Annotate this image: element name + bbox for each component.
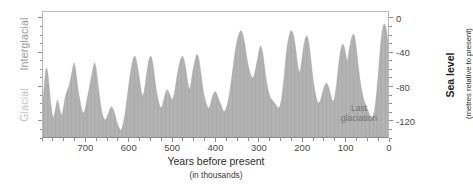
x-tick-minor xyxy=(107,138,108,141)
y-tick-major-right xyxy=(389,52,393,53)
y-tick-minor-left xyxy=(40,95,43,96)
x-tick-label: 600 xyxy=(121,142,137,153)
y-tick-label: -80 xyxy=(396,81,410,92)
x-tick-minor xyxy=(367,138,368,141)
x-tick-minor xyxy=(269,138,270,141)
y-tick-minor-right xyxy=(389,77,392,78)
y-tick-minor-left xyxy=(40,26,43,27)
y-axis-title: Sea level xyxy=(444,11,456,139)
y-tick-minor-left xyxy=(40,129,43,130)
x-tick-minor xyxy=(117,138,118,141)
x-tick-label: 0 xyxy=(386,142,391,153)
interglacial-regime-label: Interglacial xyxy=(18,11,30,77)
x-tick-minor xyxy=(139,138,140,141)
x-tick-minor xyxy=(63,138,64,141)
x-tick-minor xyxy=(237,138,238,141)
x-tick-label: 100 xyxy=(338,142,354,153)
y-tick-major-left xyxy=(38,52,42,53)
y-tick-minor-left xyxy=(40,69,43,70)
x-tick-minor xyxy=(150,138,151,141)
x-tick-minor xyxy=(378,138,379,141)
y-tick-major-right xyxy=(389,120,393,121)
y-tick-minor-right xyxy=(389,35,392,36)
last-glaciation-annotation: Last glaciation xyxy=(333,103,385,124)
x-tick-minor xyxy=(356,138,357,141)
y-tick-major-left xyxy=(38,86,42,87)
x-tick-minor xyxy=(161,138,162,141)
y-tick-minor-left xyxy=(40,103,43,104)
y-tick-minor-right xyxy=(389,43,392,44)
y-tick-minor-right xyxy=(389,129,392,130)
x-tick-minor xyxy=(334,138,335,141)
glacial-regime-label: Glacial xyxy=(18,79,30,131)
x-tick-label: 500 xyxy=(164,142,180,153)
x-tick-minor xyxy=(248,138,249,141)
y-tick-minor-right xyxy=(389,60,392,61)
x-tick-label: 300 xyxy=(251,142,267,153)
y-tick-major-left xyxy=(38,17,42,18)
x-axis-subtitle: (in thousands) xyxy=(0,170,432,180)
y-axis-subtitle: (metres relative to present) xyxy=(464,3,473,145)
x-tick-minor xyxy=(323,138,324,141)
y-tick-minor-left xyxy=(40,112,43,113)
y-tick-minor-left xyxy=(40,138,43,139)
x-tick-minor xyxy=(313,138,314,141)
x-tick-minor xyxy=(74,138,75,141)
x-axis-title: Years before present xyxy=(0,155,432,167)
y-tick-minor-right xyxy=(389,26,392,27)
last-glaciation-line-2: glaciation xyxy=(333,113,385,123)
y-tick-minor-right xyxy=(389,95,392,96)
x-tick-minor xyxy=(204,138,205,141)
y-tick-major-right xyxy=(389,86,393,87)
y-tick-label: -120 xyxy=(396,115,415,126)
x-tick-minor xyxy=(226,138,227,141)
y-tick-minor-left xyxy=(40,60,43,61)
y-tick-minor-right xyxy=(389,138,392,139)
x-tick-minor xyxy=(291,138,292,141)
y-tick-minor-right xyxy=(389,112,392,113)
y-tick-minor-right xyxy=(389,103,392,104)
last-glaciation-line-1: Last xyxy=(333,103,385,113)
x-tick-label: 200 xyxy=(294,142,310,153)
x-tick-minor xyxy=(193,138,194,141)
x-tick-minor xyxy=(52,138,53,141)
y-tick-label: -40 xyxy=(396,47,410,58)
x-tick-minor xyxy=(96,138,97,141)
y-tick-label: 0 xyxy=(396,12,401,23)
x-tick-label: 700 xyxy=(77,142,93,153)
y-tick-major-right xyxy=(389,17,393,18)
x-tick-minor xyxy=(182,138,183,141)
y-tick-minor-right xyxy=(389,69,392,70)
y-tick-minor-left xyxy=(40,35,43,36)
y-tick-minor-left xyxy=(40,43,43,44)
x-tick-label: 400 xyxy=(208,142,224,153)
y-tick-major-left xyxy=(38,120,42,121)
y-tick-minor-left xyxy=(40,77,43,78)
x-tick-minor xyxy=(280,138,281,141)
